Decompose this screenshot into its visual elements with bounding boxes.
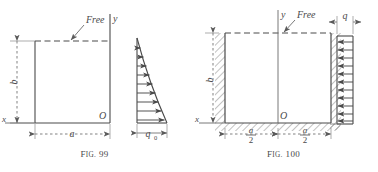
fraction-numerator-right: a [303, 125, 308, 135]
figure-100-caption: FIG.100 [189, 143, 378, 161]
load-magnitude-letter: q [146, 128, 151, 139]
caption-number-99: 99 [99, 149, 109, 159]
caption-smallcaps-100: IG. [272, 151, 282, 159]
load-arrow-group [137, 48, 165, 120]
support-hatch-left [215, 33, 225, 123]
load-envelope-triangular [137, 38, 167, 123]
caption-number-100: 100 [286, 149, 300, 159]
figure-99-caption: FIG.99 [0, 143, 189, 161]
axis-x-label: x [1, 114, 6, 124]
origin-label: O [99, 110, 106, 121]
load-magnitude-label: q 0 [146, 128, 158, 141]
load-magnitude-subscript: 0 [154, 134, 157, 141]
figure-100-drawing: Free y x O b a 2 a 2 q [189, 0, 378, 143]
fraction-denominator-right: 2 [303, 135, 308, 143]
free-edge-label: Free [85, 14, 105, 25]
figure-99-drawing: Free y x O b a q 0 [0, 0, 189, 143]
free-edge-leader [284, 20, 295, 32]
dimension-label-a: a [70, 128, 75, 139]
load-magnitude-label: q [343, 10, 348, 21]
support-hatch-right [331, 33, 341, 123]
free-edge-label: Free [296, 9, 316, 20]
dimension-label-b: b [8, 80, 19, 85]
fraction-denominator-left: 2 [249, 135, 254, 143]
origin-label: O [280, 110, 287, 121]
load-support-hatch [330, 124, 340, 130]
fraction-numerator-left: a [249, 125, 254, 135]
axis-y-label: y [280, 9, 286, 20]
axis-y-label: y [112, 13, 118, 24]
caption-smallcaps-99: IG. [86, 151, 96, 159]
figure-sheet: Free y x O b a q 0 [0, 0, 378, 172]
free-edge-leader [71, 25, 84, 40]
dimension-label-b: b [204, 78, 215, 83]
axis-x-label: x [194, 114, 199, 124]
